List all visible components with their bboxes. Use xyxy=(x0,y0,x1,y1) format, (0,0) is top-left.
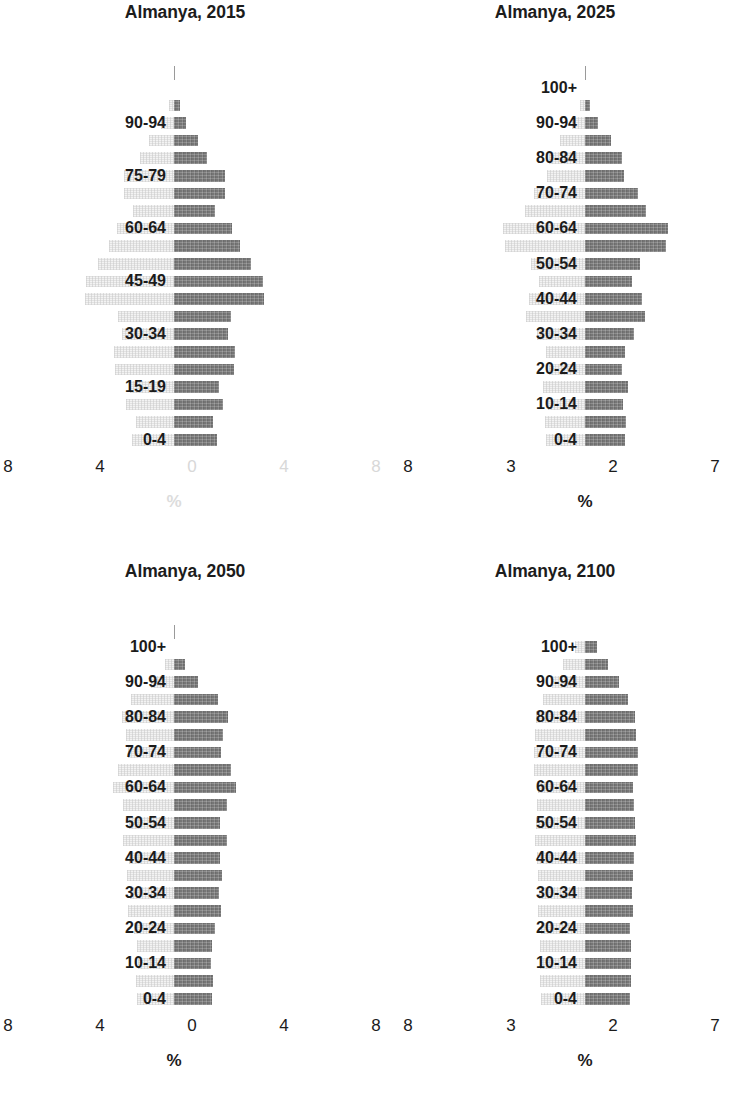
bar-male xyxy=(174,835,227,847)
pyramid-panel-2025: Almanya, 2025100+90-9480-8470-7460-6450-… xyxy=(370,0,740,559)
x-axis-title-text: % xyxy=(166,492,181,512)
bar-female xyxy=(123,799,174,811)
bar-male xyxy=(585,940,631,952)
pyramid-row xyxy=(370,100,740,112)
panel-title: Almanya, 2015 xyxy=(0,2,370,23)
bar-female xyxy=(540,940,585,952)
pyramid-row xyxy=(370,940,740,952)
bar-female xyxy=(165,659,174,671)
bar-male xyxy=(174,381,219,393)
age-group-label: 100+ xyxy=(0,639,166,655)
bar-male xyxy=(585,782,633,794)
bar-male xyxy=(585,764,638,776)
bar-male xyxy=(174,328,228,340)
pyramid-row xyxy=(0,258,370,270)
bar-male xyxy=(585,416,626,428)
bar-male xyxy=(174,117,186,129)
bar-male xyxy=(174,923,215,935)
bar-male xyxy=(585,311,645,323)
age-group-label: 100+ xyxy=(370,639,577,655)
bar-male xyxy=(174,905,221,917)
pyramid-row xyxy=(370,975,740,987)
bar-male xyxy=(174,764,231,776)
bar-male xyxy=(174,817,220,829)
bar-male xyxy=(585,887,632,899)
age-group-label: 0-4 xyxy=(0,432,166,448)
bar-female xyxy=(535,835,585,847)
pyramid-row xyxy=(370,416,740,428)
bar-female xyxy=(505,240,585,252)
bar-female xyxy=(114,346,174,358)
bar-male xyxy=(585,676,619,688)
x-axis-title: % xyxy=(370,1051,740,1071)
bar-female xyxy=(560,135,585,147)
age-group-label: 0-4 xyxy=(0,991,166,1007)
pyramid-row xyxy=(370,659,740,671)
bar-female xyxy=(115,364,174,376)
pyramid-row xyxy=(0,152,370,164)
age-group-label: 60-64 xyxy=(0,779,166,795)
x-axis-title-text: % xyxy=(577,1051,592,1071)
bar-male xyxy=(174,887,219,899)
age-group-label: 70-74 xyxy=(370,185,577,201)
bar-female xyxy=(535,729,585,741)
age-group-label: 50-54 xyxy=(370,256,577,272)
bar-male xyxy=(585,799,634,811)
age-group-label: 60-64 xyxy=(0,220,166,236)
bar-male xyxy=(585,346,625,358)
bar-male xyxy=(585,205,646,217)
bar-male xyxy=(174,135,198,147)
pyramid-row xyxy=(0,835,370,847)
bar-male xyxy=(174,694,218,706)
bar-male xyxy=(585,905,633,917)
x-axis-tick-label: 8 xyxy=(403,457,412,477)
bar-male xyxy=(174,188,225,200)
bar-male xyxy=(174,870,222,882)
pyramid-row xyxy=(370,135,740,147)
bar-male xyxy=(585,923,630,935)
bar-male xyxy=(585,641,597,653)
age-group-label: 20-24 xyxy=(0,920,166,936)
age-group-label: 10-14 xyxy=(370,396,577,412)
bar-male xyxy=(585,223,668,235)
pyramid-row xyxy=(0,311,370,323)
bar-male xyxy=(585,100,590,112)
bar-male xyxy=(585,152,622,164)
bar-female xyxy=(127,870,174,882)
bar-male xyxy=(585,188,638,200)
x-axis-tick-label: 0 xyxy=(187,457,196,477)
panel-title: Almanya, 2100 xyxy=(370,561,740,582)
x-axis-tick-label: 4 xyxy=(95,1016,104,1036)
bar-rows: 100+90-9480-8470-7460-6450-5440-4430-342… xyxy=(0,621,370,1016)
x-axis-title: % xyxy=(370,492,740,512)
age-group-label: 70-74 xyxy=(0,744,166,760)
x-axis-tick-label: 2 xyxy=(608,457,617,477)
x-axis: 8327 xyxy=(370,1016,740,1046)
bar-female xyxy=(543,694,585,706)
panel-title: Almanya, 2025 xyxy=(370,2,740,23)
bar-female xyxy=(85,293,174,305)
bar-rows: 100+90-9480-8470-7460-6450-5440-4430-342… xyxy=(370,62,740,457)
pyramid-row xyxy=(0,416,370,428)
bar-male xyxy=(174,100,180,112)
bar-male xyxy=(585,328,634,340)
bar-male xyxy=(174,152,207,164)
bar-female xyxy=(118,764,174,776)
pyramid-row xyxy=(0,729,370,741)
pyramid-row xyxy=(0,975,370,987)
plot-area: 90-9475-7960-6445-4930-3415-190-4 xyxy=(0,62,370,457)
pyramid-row xyxy=(0,399,370,411)
bar-male xyxy=(174,659,185,671)
bar-male xyxy=(585,835,636,847)
x-axis-tick-label: 7 xyxy=(710,457,719,477)
age-group-label: 30-34 xyxy=(370,326,577,342)
bar-female xyxy=(124,188,174,200)
pyramid-row xyxy=(370,764,740,776)
bar-female xyxy=(525,205,585,217)
bar-male xyxy=(585,747,638,759)
axis-top-tick xyxy=(174,66,175,80)
bar-male xyxy=(585,399,623,411)
bar-male xyxy=(174,170,225,182)
plot-area: 100+90-9480-8470-7460-6450-5440-4430-342… xyxy=(370,621,740,1016)
pyramid-row xyxy=(370,346,740,358)
